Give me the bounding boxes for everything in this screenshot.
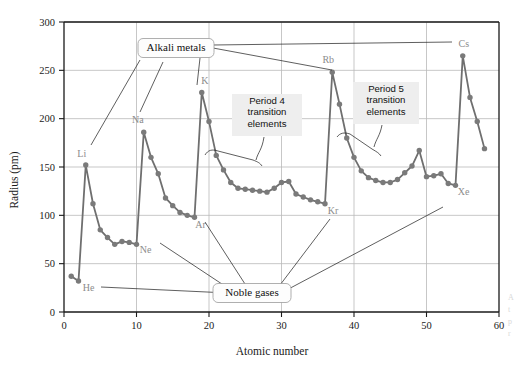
annotation-alkali-metals: Alkali metals [138, 39, 214, 58]
leader-line [213, 42, 452, 45]
data-point [388, 180, 393, 185]
figure-container: 0501001502002503000102030405060 HeLiNeNa… [0, 0, 523, 369]
x-tick-label: 30 [276, 320, 287, 331]
data-point [214, 153, 219, 158]
data-point [286, 179, 291, 184]
leader-line [374, 125, 382, 147]
data-point [293, 191, 298, 196]
data-point [330, 70, 335, 75]
edge-caption-line: p [508, 317, 512, 326]
edge-caption-line: A [508, 293, 514, 302]
element-label-li: Li [77, 148, 86, 159]
data-point [337, 101, 342, 106]
y-tick-label: 0 [50, 307, 55, 318]
annotation-leaders [91, 42, 452, 293]
data-point [163, 195, 168, 200]
data-point [156, 171, 161, 176]
data-point [235, 186, 240, 191]
data-point [467, 95, 472, 100]
data-point [250, 188, 255, 193]
data-point [366, 175, 371, 180]
data-point [373, 178, 378, 183]
atomic-radius-chart: 0501001502002503000102030405060 HeLiNeNa… [0, 0, 523, 369]
x-tick-label: 40 [349, 320, 360, 331]
data-point [272, 186, 277, 191]
leader-line [213, 48, 332, 70]
gridlines [64, 22, 499, 312]
data-point [243, 187, 248, 192]
data-point [206, 119, 211, 124]
annotation-label: Alkali metals [147, 41, 206, 53]
annotation-label: elements [248, 118, 287, 129]
data-point [170, 203, 175, 208]
data-point [395, 177, 400, 182]
element-label-ne: Ne [140, 244, 152, 255]
element-label-kr: Kr [328, 205, 339, 216]
data-point [228, 180, 233, 185]
y-tick-label: 250 [39, 65, 55, 76]
y-tick-label: 150 [39, 162, 55, 173]
annotation-label: elements [367, 106, 406, 117]
leader-line [140, 62, 163, 112]
data-point [141, 130, 146, 135]
edge-caption: Atpr [508, 293, 514, 338]
annotation-period-5: Period 5transitionelements [353, 82, 419, 124]
data-point [417, 148, 422, 153]
element-label-cs: Cs [459, 38, 470, 49]
y-tick-label: 200 [39, 113, 55, 124]
data-point [460, 53, 465, 58]
y-tick-label: 300 [39, 17, 55, 28]
x-tick-label: 50 [421, 320, 432, 331]
x-tick-label: 20 [204, 320, 215, 331]
element-label-na: Na [132, 114, 144, 125]
element-label-ar: Ar [195, 219, 206, 230]
data-point [475, 119, 480, 124]
data-point [380, 180, 385, 185]
data-point [446, 181, 451, 186]
element-label-he: He [83, 282, 95, 293]
element-label-xe: Xe [458, 186, 470, 197]
data-point [127, 240, 132, 245]
data-point [424, 174, 429, 179]
data-point [344, 135, 349, 140]
x-axis-title: Atomic number [236, 345, 309, 357]
data-point [112, 242, 117, 247]
edge-caption-line: t [508, 305, 511, 314]
data-point [83, 162, 88, 167]
element-label-k: K [201, 75, 209, 86]
leader-line [91, 60, 140, 145]
data-point [279, 180, 284, 185]
annotation-label: Period 5 [368, 83, 404, 94]
data-point [431, 173, 436, 178]
annotation-noble-gases: Noble gases [213, 284, 291, 303]
annotation-label: Noble gases [225, 286, 278, 298]
data-point [76, 278, 81, 283]
leader-line [205, 150, 262, 166]
x-tick-label: 10 [131, 320, 142, 331]
leader-line [281, 207, 443, 293]
series-line [71, 56, 484, 281]
data-point [402, 170, 407, 175]
leader-line [205, 222, 245, 284]
data-point [308, 197, 313, 202]
x-tick-label: 60 [494, 320, 505, 331]
data-point [148, 155, 153, 160]
data-point [69, 274, 74, 279]
data-point [98, 227, 103, 232]
data-point [359, 168, 364, 173]
data-point [482, 146, 487, 151]
axis-ticks [59, 22, 499, 317]
data-point [105, 235, 110, 240]
data-point [134, 242, 139, 247]
annotation-label: transition [367, 94, 406, 105]
y-axis-title: Radius (pm) [8, 151, 21, 208]
data-point [409, 163, 414, 168]
data-point [301, 194, 306, 199]
data-point [199, 90, 204, 95]
data-point [90, 201, 95, 206]
edge-caption-line: r [508, 329, 511, 338]
data-point [264, 189, 269, 194]
y-tick-label: 50 [45, 258, 56, 269]
y-tick-label: 100 [39, 210, 55, 221]
annotation-boxes: Alkali metalsNoble gasesPeriod 4transiti… [138, 39, 419, 303]
